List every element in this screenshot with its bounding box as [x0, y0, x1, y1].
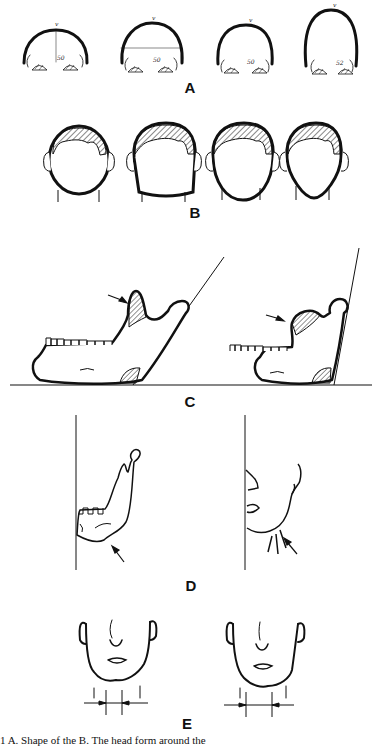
measure-value-3: 50 [247, 58, 255, 65]
panel-a: v 50 v 50 v 50 v 52 A [0, 0, 387, 100]
panel-label-d: D [186, 577, 197, 594]
figure-caption: 1 A. Shape of the B. The head form aroun… [0, 734, 387, 746]
vertex-mark-2: v [152, 14, 156, 21]
measure-value-1: 50 [57, 54, 65, 61]
panel-d: D [0, 410, 387, 600]
measure-value-2: 50 [153, 56, 161, 63]
panel-c: C [0, 225, 387, 410]
mandible-profile-drawing [0, 410, 387, 600]
panel-label-a: A [185, 79, 196, 96]
vertex-mark-1: v [55, 20, 59, 27]
width-measurement [84, 690, 294, 717]
panel-e: E [0, 600, 387, 730]
measure-value-4: 52 [336, 59, 344, 66]
panel-label-c: C [185, 393, 196, 410]
vertex-mark-3: v [249, 16, 253, 23]
frontal-face-drawing [0, 600, 387, 730]
panel-label-e: E [182, 715, 192, 732]
vertex-mark-4: v [333, 1, 337, 8]
panel-b: B [0, 110, 387, 225]
mandible-lateral-drawing [0, 225, 387, 410]
panel-label-b: B [190, 204, 201, 221]
